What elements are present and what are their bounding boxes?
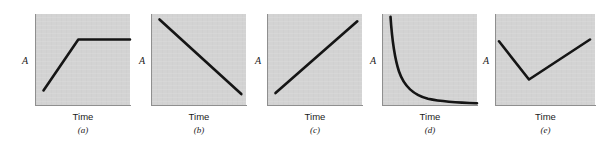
x-axis-line-d: [382, 105, 478, 106]
panel-caption-c: (c): [268, 126, 362, 135]
chart-panel-c: A Time (c): [250, 0, 368, 142]
x-axis-label-d: Time: [383, 112, 477, 122]
panel-caption-e: (e): [496, 126, 595, 135]
plot-area-a: [36, 14, 130, 105]
figure-panel-group: A Time (a) A Time (b) A: [0, 0, 606, 142]
y-axis-line-c: [267, 14, 268, 106]
plot-curve-e: [496, 14, 595, 105]
y-axis-line-e: [495, 14, 496, 106]
plot-curve-a: [36, 14, 130, 105]
plot-area-e: [496, 14, 595, 105]
x-axis-line-c: [267, 105, 363, 106]
x-axis-line-e: [495, 105, 596, 106]
x-axis-line-b: [151, 105, 247, 106]
plot-curve-d: [383, 14, 477, 105]
y-axis-line-d: [382, 14, 383, 106]
chart-panel-a: A Time (a): [18, 0, 136, 142]
plot-curve-c: [268, 14, 362, 105]
y-axis-label-a: A: [22, 56, 28, 66]
x-axis-label-a: Time: [36, 112, 130, 122]
y-axis-label-b: A: [139, 56, 145, 66]
y-axis-label-e: A: [483, 56, 489, 66]
x-axis-label-b: Time: [152, 112, 246, 122]
plot-area-c: [268, 14, 362, 105]
chart-panel-e: A Time (e): [478, 0, 598, 142]
x-axis-label-e: Time: [496, 112, 595, 122]
chart-panel-b: A Time (b): [134, 0, 252, 142]
y-axis-label-d: A: [370, 56, 376, 66]
x-axis-label-c: Time: [268, 112, 362, 122]
plot-curve-b: [152, 14, 246, 105]
panel-caption-a: (a): [36, 126, 130, 135]
chart-panel-d: A Time (d): [365, 0, 483, 142]
y-axis-label-c: A: [255, 56, 261, 66]
panel-caption-d: (d): [383, 126, 477, 135]
panel-caption-b: (b): [152, 126, 246, 135]
y-axis-line-b: [151, 14, 152, 106]
x-axis-line-a: [35, 105, 131, 106]
plot-area-b: [152, 14, 246, 105]
plot-area-d: [383, 14, 477, 105]
y-axis-line-a: [35, 14, 36, 106]
